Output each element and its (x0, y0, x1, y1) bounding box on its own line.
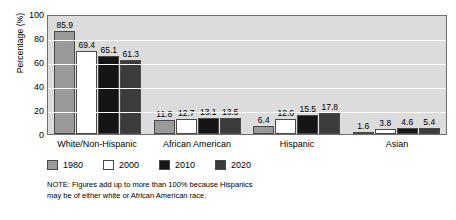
bar-value-label: 12.7 (178, 109, 195, 118)
bar-wrapper: 85.9 (54, 31, 75, 134)
bar-2000[interactable] (375, 129, 396, 134)
gridline-20 (48, 112, 446, 113)
bar-value-label: 1.6 (357, 122, 369, 131)
bar-chart: Percentage (%) 100806040200 85.969.465.1… (0, 0, 456, 220)
bar-wrapper: 6.4 (253, 126, 274, 134)
bar-value-label: 85.9 (56, 21, 73, 30)
bar-group: 11.812.713.113.5 (148, 16, 248, 134)
gridline-80 (48, 40, 446, 41)
bar-wrapper: 65.1 (98, 56, 119, 134)
bar-value-label: 5.4 (423, 118, 435, 127)
bar-group: 1.63.84.65.4 (347, 16, 447, 134)
legend-swatch-icon (159, 160, 170, 170)
bar-slot: 1.6 (353, 16, 374, 134)
bar-1980[interactable] (54, 31, 75, 134)
bar-wrapper: 13.5 (220, 118, 241, 134)
bar-2000[interactable] (275, 119, 296, 134)
x-axis-category-labels: White/Non-HispanicAfrican AmericanHispan… (47, 139, 447, 150)
bar-value-label: 6.4 (258, 116, 270, 125)
bar-group: 6.412.615.517.8 (247, 16, 347, 134)
chart-footnote: NOTE: Figures add up to more than 100% b… (47, 180, 377, 201)
gridline-60 (48, 64, 446, 65)
bar-wrapper: 15.5 (297, 115, 318, 134)
bar-slot: 65.1 (98, 16, 119, 134)
bar-wrapper: 17.8 (319, 113, 340, 134)
x-axis-label: White/Non-Hispanic (47, 139, 147, 150)
bar-1980[interactable] (154, 120, 175, 134)
legend-swatch-icon (47, 160, 58, 170)
bar-slot: 17.8 (319, 16, 340, 134)
x-axis-label: Asian (347, 139, 447, 150)
legend-item-2020[interactable]: 2020 (215, 160, 251, 170)
bar-wrapper: 13.1 (198, 118, 219, 134)
bar-wrapper: 4.6 (397, 128, 418, 134)
y-axis-tick-0: 0 (22, 131, 44, 140)
bar-wrapper: 12.6 (275, 119, 296, 134)
bar-groups: 85.969.465.161.311.812.713.113.56.412.61… (48, 16, 446, 134)
bar-slot: 4.6 (397, 16, 418, 134)
bar-2010[interactable] (297, 115, 318, 134)
bar-slot: 61.3 (120, 16, 141, 134)
gridline-40 (48, 88, 446, 89)
bar-slot: 6.4 (253, 16, 274, 134)
bar-slot: 15.5 (297, 16, 318, 134)
legend-swatch-icon (103, 160, 114, 170)
bar-slot: 85.9 (54, 16, 75, 134)
bar-2010[interactable] (98, 56, 119, 134)
legend-label: 1980 (63, 160, 83, 170)
bar-slot: 12.6 (275, 16, 296, 134)
bar-group: 85.969.465.161.3 (48, 16, 148, 134)
legend: 1980200020102020 (47, 160, 377, 170)
bar-slot: 12.7 (176, 16, 197, 134)
bar-slot: 3.8 (375, 16, 396, 134)
bar-wrapper: 1.6 (353, 132, 374, 134)
legend-item-2010[interactable]: 2010 (159, 160, 195, 170)
bar-2000[interactable] (176, 119, 197, 134)
bar-slot: 13.1 (198, 16, 219, 134)
bar-2020[interactable] (419, 128, 440, 134)
y-axis-tick-labels: 100806040200 (22, 10, 44, 135)
bar-value-label: 17.8 (321, 103, 338, 112)
bar-2020[interactable] (319, 113, 340, 134)
bar-value-label: 69.4 (78, 41, 95, 50)
legend-label: 2000 (119, 160, 139, 170)
bar-2010[interactable] (198, 118, 219, 134)
legend-item-1980[interactable]: 1980 (47, 160, 83, 170)
bar-value-label: 15.5 (299, 105, 316, 114)
bar-wrapper: 61.3 (120, 60, 141, 134)
y-axis-tick-100: 100 (22, 11, 44, 20)
bar-value-label: 4.6 (401, 118, 413, 127)
bar-wrapper: 5.4 (419, 128, 440, 134)
legend-item-2000[interactable]: 2000 (103, 160, 139, 170)
bar-1980[interactable] (353, 132, 374, 134)
bar-value-label: 61.3 (122, 50, 139, 59)
y-axis-tick-40: 40 (22, 83, 44, 92)
bar-slot: 69.4 (76, 16, 97, 134)
legend-swatch-icon (215, 160, 226, 170)
y-axis-tick-20: 20 (22, 107, 44, 116)
bar-value-label: 65.1 (100, 46, 117, 55)
bar-slot: 13.5 (220, 16, 241, 134)
bar-wrapper: 11.8 (154, 120, 175, 134)
bar-value-label: 12.6 (277, 109, 294, 118)
x-axis-label: Hispanic (247, 139, 347, 150)
y-axis-tick-60: 60 (22, 59, 44, 68)
y-axis-tick-80: 80 (22, 35, 44, 44)
footnote-line-2: may be of either white or African Americ… (47, 191, 377, 202)
plot-area: 85.969.465.161.311.812.713.113.56.412.61… (47, 15, 447, 135)
bar-1980[interactable] (253, 126, 274, 134)
x-axis-label: African American (147, 139, 247, 150)
legend-label: 2010 (175, 160, 195, 170)
bar-2010[interactable] (397, 128, 418, 134)
bar-value-label: 3.8 (379, 119, 391, 128)
bar-slot: 11.8 (154, 16, 175, 134)
legend-label: 2020 (231, 160, 251, 170)
footnote-line-1: NOTE: Figures add up to more than 100% b… (47, 180, 377, 191)
bar-slot: 5.4 (419, 16, 440, 134)
bar-2020[interactable] (120, 60, 141, 134)
bar-2020[interactable] (220, 118, 241, 134)
bar-wrapper: 12.7 (176, 119, 197, 134)
bar-wrapper: 3.8 (375, 129, 396, 134)
